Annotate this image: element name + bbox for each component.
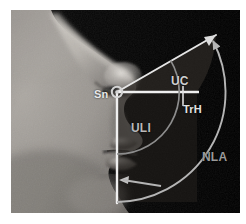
profile-photograph: Sn UC TrH ULI NLA <box>11 10 240 213</box>
label-trh: TrH <box>183 104 202 115</box>
label-uli: ULI <box>131 122 151 134</box>
sn-vertex-dot <box>115 90 119 94</box>
label-uc: UC <box>171 75 189 87</box>
measurement-overlay <box>11 10 240 213</box>
label-nla: NLA <box>202 151 227 163</box>
figure-root: Sn UC TrH ULI NLA <box>0 0 246 224</box>
label-sn: Sn <box>94 89 108 100</box>
